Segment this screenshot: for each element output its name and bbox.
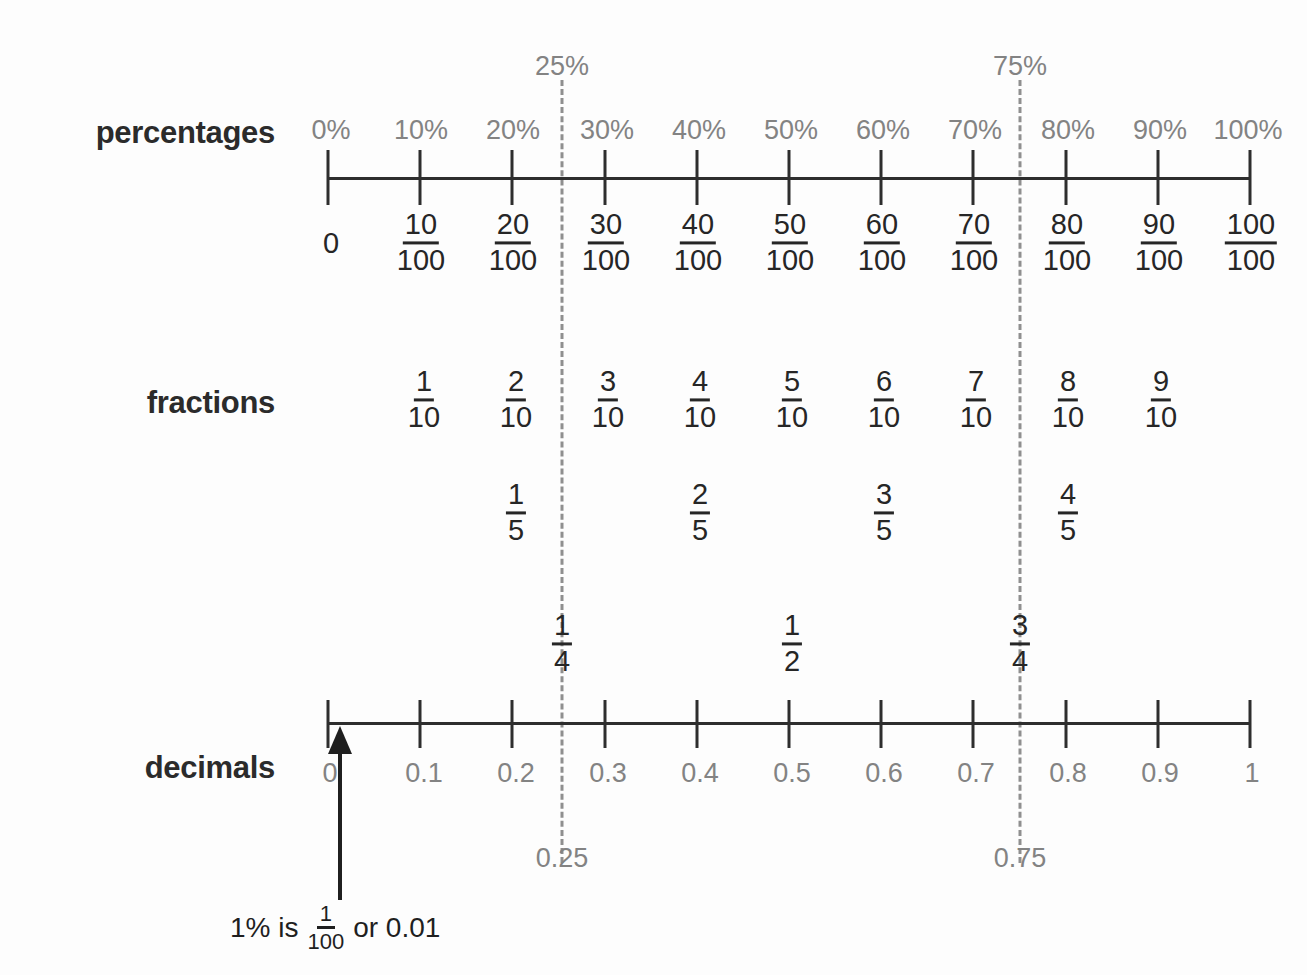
fraction-numerator: 10 bbox=[403, 210, 439, 244]
hundredths-fraction-40: 40 100 bbox=[672, 210, 724, 275]
tenths-fraction-1-10: 1 10 bbox=[406, 367, 442, 432]
footnote-fraction-1-100: 1 100 bbox=[307, 903, 344, 953]
fraction-denominator: 5 bbox=[506, 514, 526, 546]
fraction-numerator: 8 bbox=[1058, 367, 1078, 401]
percentages-label-50: 50% bbox=[764, 115, 818, 146]
percentages-label-0: 0% bbox=[311, 115, 350, 146]
tenths-fraction-8-10: 8 10 bbox=[1050, 367, 1086, 432]
fraction-denominator: 10 bbox=[498, 401, 534, 433]
percentages-label-10: 10% bbox=[394, 115, 448, 146]
percentages-label-90: 90% bbox=[1133, 115, 1187, 146]
hundredths-fraction-70: 70 100 bbox=[948, 210, 1000, 275]
fraction-denominator: 5 bbox=[1058, 514, 1078, 546]
fraction-denominator: 5 bbox=[874, 514, 894, 546]
decimals-tick-0-6 bbox=[880, 700, 883, 748]
decimals-tick-0-3 bbox=[604, 700, 607, 748]
hundredths-fraction-60: 60 100 bbox=[856, 210, 908, 275]
percentages-label-80: 80% bbox=[1041, 115, 1095, 146]
fraction-numerator: 70 bbox=[956, 210, 992, 244]
decimals-label-0-8: 0.8 bbox=[1049, 758, 1087, 789]
fraction-denominator: 10 bbox=[590, 401, 626, 433]
percentages-tick-100 bbox=[1249, 150, 1252, 205]
fraction-numerator: 3 bbox=[598, 367, 618, 401]
fraction-numerator: 40 bbox=[680, 210, 716, 244]
hundredths-fraction-50: 50 100 bbox=[764, 210, 816, 275]
hundredths-fraction-100: 100 100 bbox=[1225, 210, 1277, 275]
fraction-denominator: 100 bbox=[1225, 244, 1277, 276]
fifths-fraction-1-5: 1 5 bbox=[506, 480, 526, 545]
quarters-fraction-3-4: 3 4 bbox=[1010, 611, 1030, 676]
decimals-label-0-7: 0.7 bbox=[957, 758, 995, 789]
fraction-denominator: 100 bbox=[948, 244, 1000, 276]
guide-label-0-75: 0.75 bbox=[994, 843, 1047, 874]
fraction-denominator: 10 bbox=[958, 401, 994, 433]
fraction-denominator: 10 bbox=[406, 401, 442, 433]
decimals-tick-0-8 bbox=[1065, 700, 1068, 748]
decimals-label-1: 1 bbox=[1244, 758, 1259, 789]
percentages-label-100: 100% bbox=[1213, 115, 1282, 146]
hundredths-fraction-10: 10 100 bbox=[395, 210, 447, 275]
tenths-fraction-7-10: 7 10 bbox=[958, 367, 994, 432]
fraction-denominator: 100 bbox=[307, 929, 344, 954]
percentages-label-70: 70% bbox=[948, 115, 1002, 146]
fraction-numerator: 5 bbox=[782, 367, 802, 401]
quarters-fraction-1-4: 1 4 bbox=[552, 611, 572, 676]
figure-canvas: percentages fractions decimals 25% 75% 0… bbox=[0, 0, 1307, 975]
tenths-fraction-4-10: 4 10 bbox=[682, 367, 718, 432]
footnote-prefix: 1% is bbox=[230, 912, 298, 944]
halves-fraction-1-2: 1 2 bbox=[782, 611, 802, 676]
fraction-denominator: 100 bbox=[580, 244, 632, 276]
fraction-numerator: 1 bbox=[317, 903, 335, 929]
decimals-label-0-9: 0.9 bbox=[1141, 758, 1179, 789]
callout-arrow-icon bbox=[320, 722, 360, 902]
fraction-numerator: 7 bbox=[966, 367, 986, 401]
fraction-denominator: 10 bbox=[866, 401, 902, 433]
fraction-numerator: 100 bbox=[1225, 210, 1277, 244]
fraction-denominator: 10 bbox=[1050, 401, 1086, 433]
percentages-tick-10 bbox=[419, 150, 422, 205]
hundredths-fraction-20: 20 100 bbox=[487, 210, 539, 275]
fraction-denominator: 100 bbox=[764, 244, 816, 276]
fraction-denominator: 100 bbox=[1133, 244, 1185, 276]
decimals-tick-0-4 bbox=[696, 700, 699, 748]
row-heading-fractions: fractions bbox=[20, 385, 275, 421]
decimals-tick-0-5 bbox=[788, 700, 791, 748]
tenths-fraction-9-10: 9 10 bbox=[1143, 367, 1179, 432]
guide-label-0-25: 0.25 bbox=[536, 843, 589, 874]
percentages-tick-50 bbox=[788, 150, 791, 205]
fraction-denominator: 10 bbox=[774, 401, 810, 433]
percentages-label-30: 30% bbox=[580, 115, 634, 146]
decimals-tick-1 bbox=[1249, 700, 1252, 748]
guide-line-25-percent bbox=[561, 80, 564, 863]
decimals-label-0-6: 0.6 bbox=[865, 758, 903, 789]
guide-line-75-percent bbox=[1019, 80, 1022, 863]
fraction-numerator: 4 bbox=[1058, 480, 1078, 514]
fraction-denominator: 100 bbox=[395, 244, 447, 276]
fraction-denominator: 100 bbox=[487, 244, 539, 276]
decimals-label-0-2: 0.2 bbox=[497, 758, 535, 789]
fraction-numerator: 50 bbox=[772, 210, 808, 244]
footnote-one-percent: 1% is 1 100 or 0.01 bbox=[230, 903, 440, 953]
fifths-fraction-2-5: 2 5 bbox=[690, 480, 710, 545]
decimals-tick-0-1 bbox=[419, 700, 422, 748]
fraction-denominator: 4 bbox=[552, 645, 572, 677]
guide-label-75-percent: 75% bbox=[993, 51, 1047, 82]
percentages-tick-90 bbox=[1157, 150, 1160, 205]
hundredths-fraction-90: 90 100 bbox=[1133, 210, 1185, 275]
fraction-denominator: 10 bbox=[1143, 401, 1179, 433]
tenths-fraction-6-10: 6 10 bbox=[866, 367, 902, 432]
guide-label-25-percent: 25% bbox=[535, 51, 589, 82]
tenths-fraction-2-10: 2 10 bbox=[498, 367, 534, 432]
fraction-numerator: 1 bbox=[414, 367, 434, 401]
decimals-tick-0-2 bbox=[511, 700, 514, 748]
fraction-denominator: 100 bbox=[856, 244, 908, 276]
fraction-numerator: 9 bbox=[1151, 367, 1171, 401]
fifths-fraction-3-5: 3 5 bbox=[874, 480, 894, 545]
tenths-fraction-3-10: 3 10 bbox=[590, 367, 626, 432]
hundredths-fraction-30: 30 100 bbox=[580, 210, 632, 275]
decimals-label-0-5: 0.5 bbox=[773, 758, 811, 789]
row-heading-percentages: percentages bbox=[20, 115, 275, 151]
percentages-tick-30 bbox=[604, 150, 607, 205]
percentages-label-20: 20% bbox=[486, 115, 540, 146]
row-heading-decimals: decimals bbox=[20, 750, 275, 786]
